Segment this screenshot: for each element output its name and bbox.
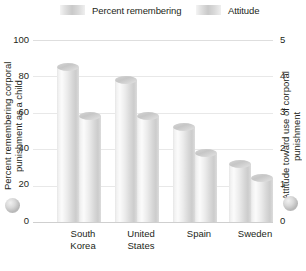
y-axis-right-tick-0: 0 [280, 216, 300, 226]
x-axis-label-south-korea: South Korea [51, 228, 115, 251]
legend-swatch-percent-remembering [60, 5, 85, 15]
right-axis-sphere-marker [283, 196, 298, 211]
chart-container: Percent remembering Attitude 100 80 60 4… [0, 0, 306, 271]
y-axis-right-tick-5: 5 [280, 35, 300, 45]
x-axis-category-labels: South Korea United States Spain Sweden [33, 228, 273, 268]
bar-cap-icon [115, 76, 137, 84]
bar-attitude-united-states [137, 116, 159, 222]
x-axis-label-line1: Sweden [223, 228, 287, 240]
chart-legend: Percent remembering Attitude [0, 3, 306, 23]
plot-area [33, 40, 273, 222]
bar-cap-icon [137, 112, 159, 120]
y-axis-right-title: Attitude toward use of corporal punishme… [280, 66, 304, 206]
bar-attitude-sweden [251, 178, 273, 222]
x-axis-label-line2: Korea [51, 240, 115, 252]
bar-cap-icon [79, 112, 101, 120]
bar-cap-icon [251, 174, 273, 182]
gridline-100 [33, 40, 273, 41]
y-axis-left-tick-100: 100 [5, 35, 29, 45]
x-axis-label-spain: Spain [167, 228, 231, 240]
bar-percent-sweden [229, 164, 251, 222]
bar-cap-icon [57, 63, 79, 71]
x-axis-label-line1: Spain [167, 228, 231, 240]
x-axis-label-line2: States [109, 240, 173, 252]
x-axis-label-line1: United [109, 228, 173, 240]
bar-attitude-spain [195, 153, 217, 222]
gridline-0 [33, 222, 273, 223]
legend-item-percent-remembering: Percent remembering [60, 3, 181, 17]
legend-item-attitude: Attitude [196, 3, 259, 17]
y-axis-left-tick-0: 0 [5, 216, 29, 226]
bar-cap-icon [195, 149, 217, 157]
bar-cap-icon [229, 160, 251, 168]
legend-label-percent-remembering: Percent remembering [92, 5, 181, 16]
x-axis-label-sweden: Sweden [223, 228, 287, 240]
bar-attitude-south-korea [79, 116, 101, 222]
x-axis-label-line1: South [51, 228, 115, 240]
bar-percent-united-states [115, 80, 137, 222]
y-axis-left-title: Percent remembering corporal punishment … [2, 46, 26, 206]
x-axis-label-united-states: United States [109, 228, 173, 251]
legend-label-attitude: Attitude [228, 5, 259, 16]
legend-swatch-attitude [196, 5, 221, 15]
bar-percent-south-korea [57, 67, 79, 222]
bar-percent-spain [173, 127, 195, 222]
bar-cap-icon [173, 123, 195, 131]
left-axis-sphere-marker [5, 198, 20, 213]
